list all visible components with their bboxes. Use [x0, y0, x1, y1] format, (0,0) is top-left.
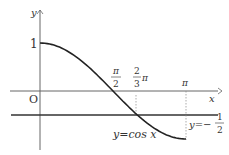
svg-text:2: 2 — [134, 66, 140, 76]
x-tick-two-thirds-pi: 2 3 π — [133, 66, 149, 89]
svg-text:π: π — [141, 73, 149, 83]
y-tick-one: 1 — [30, 37, 38, 51]
svg-text:2: 2 — [217, 125, 223, 135]
x-tick-pi-half: π 2 — [111, 66, 121, 89]
origin-label: O — [29, 93, 38, 106]
svg-text:y=−: y=− — [188, 119, 211, 130]
x-tick-pi: π — [181, 78, 189, 88]
svg-text:3: 3 — [134, 79, 140, 89]
svg-text:2: 2 — [113, 79, 119, 89]
cosine-graph: y x O 1 π 2 2 3 π π y=cos x y=− 1 2 — [0, 0, 229, 155]
svg-text:1: 1 — [217, 112, 223, 122]
svg-text:π: π — [112, 66, 120, 76]
x-axis-label: x — [209, 93, 215, 104]
y-axis — [37, 10, 43, 150]
y-axis-label: y — [30, 7, 37, 18]
curve-label: y=cos x — [112, 128, 157, 141]
